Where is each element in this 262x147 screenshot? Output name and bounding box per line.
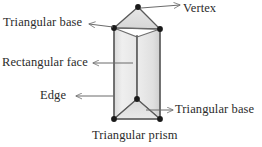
bottom-left-vertex-dot bbox=[111, 116, 117, 122]
front-mid-vertex-dot bbox=[134, 96, 140, 102]
diagram-canvas: Vertex Triangular base Rectangular face … bbox=[0, 0, 262, 147]
label-triangular-base-top: Triangular base bbox=[3, 16, 82, 29]
bottom-right-vertex-dot bbox=[157, 116, 163, 122]
label-triangular-base-bottom: Triangular base bbox=[175, 103, 254, 116]
apex-vertex-dot bbox=[135, 4, 141, 10]
vertex-arrow bbox=[141, 5, 180, 8]
triangular-base-top-arrow bbox=[89, 24, 113, 27]
figure-caption: Triangular prism bbox=[92, 129, 178, 142]
label-vertex: Vertex bbox=[183, 2, 216, 15]
label-edge: Edge bbox=[40, 89, 66, 102]
top-triangular-base-face bbox=[114, 7, 160, 29]
top-right-vertex-dot bbox=[157, 26, 163, 32]
label-rectangular-face: Rectangular face bbox=[2, 56, 88, 69]
top-left-vertex-dot bbox=[111, 25, 117, 31]
